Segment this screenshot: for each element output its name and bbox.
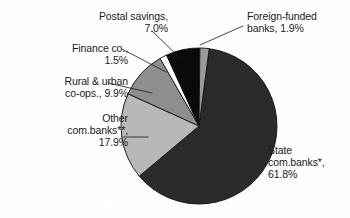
pie-label-postal-savings: Postal savings, 7.0% bbox=[60, 11, 168, 35]
pie-label-finance-co: Finance co., 1.5% bbox=[22, 43, 128, 67]
leader-line-postal-savings bbox=[152, 31, 180, 58]
leader-line-foreign-funded bbox=[200, 26, 243, 45]
pie-chart-figure: Postal savings, 7.0% Foreign-funded bank… bbox=[0, 0, 350, 218]
pie-label-foreign-funded-banks: Foreign-funded banks, 1.9% bbox=[247, 11, 347, 35]
pie-label-state-com-banks: State com.banks*, 61.8% bbox=[268, 145, 350, 180]
pie-label-other-com-banks: Other com.banks**, 17.9% bbox=[10, 113, 128, 148]
pie-slices bbox=[121, 48, 277, 204]
pie-label-rural-urban-coops: Rural & urban co-ops., 9.9% bbox=[6, 76, 128, 100]
